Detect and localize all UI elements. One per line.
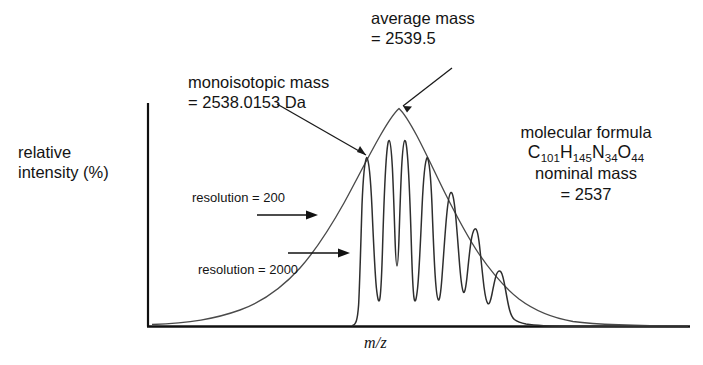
molecular-formula-annotation: molecular formula C101H145N34O44 nominal… [491, 122, 681, 204]
resolution-200-label: resolution = 200 [192, 190, 285, 206]
y-axis-label: relative intensity (%) [18, 142, 109, 182]
y-axis-label-line1: relative [18, 142, 109, 162]
molecular-formula-title: molecular formula [491, 122, 681, 142]
nominal-mass-title: nominal mass [491, 163, 681, 183]
average-mass-line1: average mass [371, 8, 475, 28]
average-mass-line2: = 2539.5 [371, 28, 475, 48]
formula-count-n: 34 [605, 152, 618, 164]
monoisotopic-mass-line2: = 2538.0153 Da [188, 92, 329, 112]
formula-element-o: O [618, 142, 632, 162]
resolution-2000-label: resolution = 2000 [198, 262, 298, 278]
average-mass-annotation: average mass = 2539.5 [371, 8, 475, 48]
formula-count-h: 145 [573, 152, 592, 164]
formula-element-c: C [528, 142, 541, 162]
resolution-2000-arrow [288, 249, 350, 258]
formula-count-o: 44 [631, 152, 644, 164]
x-axis-label: m/z [364, 333, 387, 353]
formula-element-n: N [592, 142, 605, 162]
nominal-mass-value: = 2537 [491, 184, 681, 204]
resolution-200-arrow [257, 211, 318, 220]
monoisotopic-mass-line1: monoisotopic mass [188, 72, 329, 92]
molecular-formula-value: C101H145N34O44 [491, 142, 681, 163]
formula-count-c: 101 [541, 152, 560, 164]
mass-spectrum-figure: relative intensity (%) m/z average mass … [0, 0, 703, 365]
average-mass-arrow [403, 68, 452, 113]
formula-element-h: H [560, 142, 573, 162]
monoisotopic-mass-annotation: monoisotopic mass = 2538.0153 Da [188, 72, 329, 112]
y-axis-label-line2: intensity (%) [18, 162, 109, 182]
